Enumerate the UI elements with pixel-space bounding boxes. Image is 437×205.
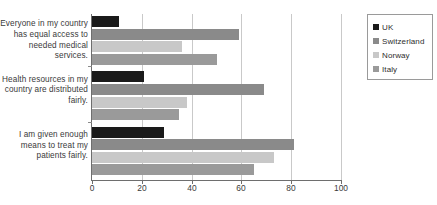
legend-item[interactable]: Italy bbox=[373, 62, 432, 76]
legend-label: Switzerland bbox=[382, 37, 424, 46]
category-label: Health resources in my country are distr… bbox=[0, 75, 88, 107]
x-axis-tick-label: 80 bbox=[286, 183, 295, 193]
bar bbox=[92, 29, 239, 40]
legend-label: Italy bbox=[382, 65, 397, 74]
category-axis-labels: Everyone in my country has equal access … bbox=[0, 14, 88, 180]
bar bbox=[92, 84, 264, 95]
legend-label: Norway bbox=[382, 51, 410, 60]
legend-swatch-icon bbox=[373, 66, 379, 72]
bar-chart: Everyone in my country has equal access … bbox=[0, 0, 437, 205]
bar bbox=[92, 127, 164, 138]
bar bbox=[92, 139, 294, 150]
legend-item[interactable]: UK bbox=[373, 20, 432, 34]
plot-area bbox=[92, 14, 341, 180]
bar bbox=[92, 16, 119, 27]
bar bbox=[92, 41, 182, 52]
bar bbox=[92, 97, 187, 108]
gridline bbox=[291, 14, 292, 180]
chart-legend: UKSwitzerlandNorwayItaly bbox=[367, 14, 433, 80]
legend-swatch-icon bbox=[373, 24, 379, 30]
y-axis-tick bbox=[88, 66, 92, 67]
bar bbox=[92, 54, 217, 65]
x-axis-tick-label: 60 bbox=[236, 183, 245, 193]
legend-label: UK bbox=[382, 23, 393, 32]
legend-item[interactable]: Norway bbox=[373, 48, 432, 62]
bar bbox=[92, 109, 179, 120]
x-axis-tick-label: 40 bbox=[187, 183, 196, 193]
x-axis-line bbox=[91, 180, 342, 181]
x-axis-tick-label: 100 bbox=[334, 183, 348, 193]
legend-swatch-icon bbox=[373, 52, 379, 58]
x-axis-tick-label: 0 bbox=[90, 183, 95, 193]
bar bbox=[92, 71, 144, 82]
bar bbox=[92, 152, 274, 163]
legend-item[interactable]: Switzerland bbox=[373, 34, 432, 48]
x-axis-tick-labels: 020406080100 bbox=[92, 183, 341, 197]
legend-swatch-icon bbox=[373, 38, 379, 44]
bar bbox=[92, 164, 254, 175]
gridline bbox=[341, 14, 342, 180]
x-axis-tick-label: 20 bbox=[137, 183, 146, 193]
y-axis-tick bbox=[88, 122, 92, 123]
category-label: Everyone in my country has equal access … bbox=[0, 19, 88, 61]
category-label: I am given enough means to treat my pati… bbox=[0, 130, 88, 162]
